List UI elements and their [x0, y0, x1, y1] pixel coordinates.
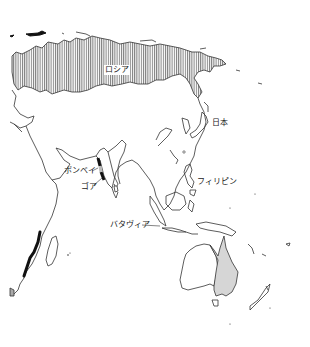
label-philippines: フィリピン — [197, 178, 237, 186]
highlight-east-africa-coast — [24, 232, 40, 276]
australia-west — [180, 244, 218, 290]
tasmania — [212, 300, 218, 306]
highlight-bombay-coast — [98, 158, 100, 166]
label-bombay: ボンベイ — [64, 167, 96, 175]
label-japan: 日本 — [212, 119, 228, 127]
africa-coastline — [10, 180, 58, 296]
philippines-islands — [184, 164, 196, 196]
madagascar — [46, 236, 58, 266]
label-batavia: バタヴィア — [110, 221, 150, 229]
label-russia: ロシア — [104, 65, 130, 75]
asia-map — [0, 0, 310, 347]
indonesia-islands — [150, 192, 236, 236]
pacific-islands — [229, 193, 290, 256]
label-goa: ゴア — [81, 183, 97, 191]
